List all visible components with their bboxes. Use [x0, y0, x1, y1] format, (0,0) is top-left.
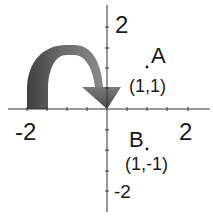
point-a-dot — [146, 66, 149, 69]
point-a-name: A — [151, 45, 166, 67]
point-a-coord: (1,1) — [129, 77, 166, 95]
point-b-name: B — [129, 129, 144, 151]
point-b-dot — [146, 148, 149, 151]
y-tick-label-pos: 2 — [115, 13, 128, 37]
plane-svg — [0, 0, 213, 224]
coordinate-plane: 2 -2 -2 2 A (1,1) B (1,-1) — [0, 0, 213, 224]
point-b-coord: (1,-1) — [125, 155, 168, 173]
y-tick-label-neg: -2 — [114, 182, 131, 201]
x-tick-label-neg: -2 — [15, 120, 36, 144]
x-tick-label-pos: 2 — [179, 120, 192, 144]
